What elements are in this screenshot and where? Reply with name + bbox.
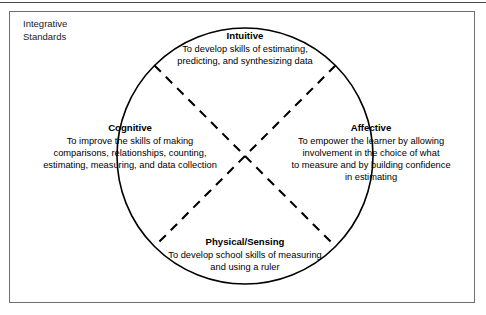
quadrant-intuitive: Intuitive To develop skills of estimatin… xyxy=(137,30,353,67)
quadrant-affective-description: To empower the learner by allowing invol… xyxy=(268,135,474,184)
quadrant-affective-title: Affective xyxy=(268,122,474,135)
quadrant-intuitive-description: To develop skills of estimating, predict… xyxy=(137,43,353,68)
quadrant-intuitive-title: Intuitive xyxy=(137,30,353,43)
quadrant-cognitive: Cognitive To improve the skills of makin… xyxy=(22,122,238,171)
quadrant-affective: Affective To empower the learner by allo… xyxy=(268,122,474,184)
quadrant-physical-sensing-description: To develop school skills of measuring an… xyxy=(137,249,353,274)
quadrant-cognitive-title: Cognitive xyxy=(22,122,238,135)
quadrant-physical-sensing-title: Physical/Sensing xyxy=(137,236,353,249)
quadrant-physical-sensing: Physical/Sensing To develop school skill… xyxy=(137,236,353,273)
quadrant-cognitive-description: To improve the skills of making comparis… xyxy=(22,135,238,172)
